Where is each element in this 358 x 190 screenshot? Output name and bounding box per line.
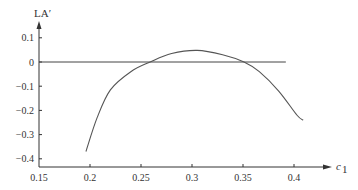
y-tick-label: −0.3 <box>16 129 34 140</box>
axis-labels: LA′c1 <box>34 7 348 175</box>
x-tick-label: 0.35 <box>234 172 252 183</box>
series <box>39 50 303 151</box>
y-tick-label: −0.1 <box>16 81 34 92</box>
y-tick-label: −0.2 <box>16 105 34 116</box>
x-tick-label: 0.25 <box>132 172 150 183</box>
x-tick-label: 0.2 <box>84 172 97 183</box>
x-tick-label: 0.3 <box>186 172 199 183</box>
x-axis-label: c <box>336 160 341 172</box>
la-curve <box>86 50 303 151</box>
x-axis-arrow-icon <box>323 165 332 170</box>
x-tick-label: 0.4 <box>288 172 301 183</box>
y-tick-label: −0.4 <box>16 153 34 164</box>
y-axis-arrow-icon <box>37 21 42 29</box>
y-tick-label: 0 <box>29 57 34 68</box>
x-tick-label: 0.15 <box>30 172 48 183</box>
y-tick-label: 0.1 <box>22 32 35 43</box>
chart: 0.10−0.1−0.2−0.3−0.40.150.20.250.30.350.… <box>0 0 358 190</box>
ticks: 0.10−0.1−0.2−0.3−0.40.150.20.250.30.350.… <box>16 32 300 183</box>
x-axis-label-subscript: 1 <box>342 163 348 175</box>
axes <box>37 21 333 170</box>
y-axis-label: LA′ <box>34 7 51 19</box>
